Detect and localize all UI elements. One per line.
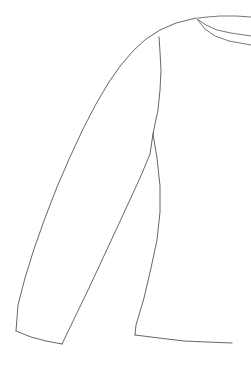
- garment-flat-sketch: [0, 0, 251, 366]
- sketch-background: [0, 0, 251, 366]
- sketch-canvas: [0, 0, 251, 366]
